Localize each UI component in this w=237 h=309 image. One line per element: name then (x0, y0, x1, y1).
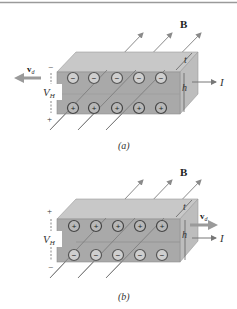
svg-text:+: + (159, 104, 164, 113)
hall-effect-figure: − − − − − + + + + + B t h I vd (0, 0, 237, 309)
charge-positive: + (68, 103, 79, 114)
caption-b: (b) (118, 291, 130, 303)
svg-text:−: − (71, 74, 76, 83)
svg-text:−: − (137, 74, 142, 83)
svg-text:+: + (115, 104, 120, 113)
conductor-block (57, 52, 198, 114)
drift-velocity-label: vd (27, 64, 36, 75)
charge-positive: + (113, 221, 124, 232)
svg-text:+: + (92, 104, 97, 113)
caption-a: (a) (118, 140, 130, 152)
charge-negative: − (112, 73, 123, 84)
hall-polarity-top: − (48, 62, 53, 72)
charge-negative: − (91, 250, 102, 261)
current-label: I (219, 232, 225, 244)
charge-positive: + (112, 103, 123, 114)
svg-text:−: − (94, 251, 99, 260)
charge-positive: + (135, 221, 146, 232)
charge-negative: − (134, 73, 145, 84)
charge-positive: + (89, 103, 100, 114)
hall-polarity-bottom: + (47, 114, 52, 124)
charge-positive: + (156, 103, 167, 114)
charge-positive: + (134, 103, 145, 114)
svg-text:−: − (116, 251, 121, 260)
charge-negative: − (69, 250, 80, 261)
thickness-label: t (184, 54, 187, 65)
charge-negative: − (157, 250, 168, 261)
svg-text:+: + (94, 222, 99, 231)
charge-positive: + (69, 221, 80, 232)
charge-negative: − (113, 250, 124, 261)
svg-text:−: − (138, 251, 143, 260)
thickness-label: t (183, 201, 186, 212)
height-label: h (182, 82, 187, 93)
panel-b: + + + + + − − − − − B t h vd I + VH − (40, 166, 225, 303)
current-label: I (219, 76, 225, 88)
field-label: B (180, 18, 188, 30)
panel-a: − − − − − + + + + + B t h I vd (14, 18, 225, 152)
field-label: B (180, 166, 188, 178)
svg-text:+: + (137, 104, 142, 113)
charge-negative: − (156, 73, 167, 84)
drift-velocity-label: vd (200, 211, 209, 222)
svg-text:+: + (116, 222, 121, 231)
svg-text:−: − (115, 74, 120, 83)
svg-text:−: − (159, 74, 164, 83)
charge-positive: + (157, 221, 168, 232)
svg-text:−: − (160, 251, 165, 260)
charge-positive: + (91, 221, 102, 232)
hall-polarity-bottom: − (48, 262, 53, 272)
svg-text:+: + (71, 104, 76, 113)
charge-negative: − (68, 73, 79, 84)
height-label: h (182, 229, 187, 240)
charge-negative: − (89, 73, 100, 84)
svg-text:−: − (92, 74, 97, 83)
svg-text:+: + (72, 222, 77, 231)
drift-velocity-arrow (14, 73, 41, 83)
charge-negative: − (135, 250, 146, 261)
hall-polarity-top: + (47, 206, 52, 216)
svg-text:−: − (72, 251, 77, 260)
svg-text:+: + (138, 222, 143, 231)
svg-text:+: + (160, 222, 165, 231)
